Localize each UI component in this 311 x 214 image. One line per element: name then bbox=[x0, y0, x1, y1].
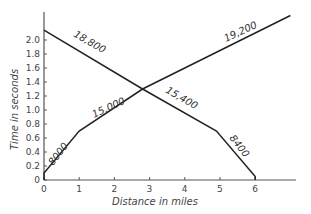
y-axis-title: Time in seconds bbox=[9, 69, 20, 150]
y-tick-label: 0.4 bbox=[26, 147, 41, 157]
y-tick-label: 0.6 bbox=[26, 133, 41, 143]
y-tick-label: 0.8 bbox=[26, 119, 41, 129]
segment-label: 8400 bbox=[227, 132, 251, 159]
segment-label: 15,000 bbox=[90, 95, 126, 120]
x-tick-label: 4 bbox=[182, 184, 188, 194]
x-tick-label: 6 bbox=[252, 184, 258, 194]
y-tick-label: 1.6 bbox=[26, 63, 41, 73]
y-tick-label: 0 bbox=[34, 175, 40, 185]
segment-label: 8000 bbox=[46, 140, 70, 167]
chart-svg: 0123456 00.20.40.60.81.01.21.41.61.82.0 … bbox=[0, 0, 311, 214]
y-tick-label: 1.0 bbox=[26, 105, 41, 115]
y-tick-label: 0.2 bbox=[26, 161, 40, 171]
y-tick-label: 1.8 bbox=[26, 49, 41, 59]
x-tick-label: 5 bbox=[217, 184, 223, 194]
y-tick-label: 1.4 bbox=[26, 77, 41, 87]
segment-label: 15,400 bbox=[164, 84, 200, 111]
segment-label: 18,800 bbox=[72, 28, 108, 55]
x-tick-label: 3 bbox=[147, 184, 153, 194]
x-tick-label: 0 bbox=[41, 184, 47, 194]
y-tick-label: 2.0 bbox=[26, 35, 41, 45]
y-tick-label: 1.2 bbox=[26, 91, 40, 101]
x-tick-label: 2 bbox=[111, 184, 117, 194]
x-tick-label: 1 bbox=[76, 184, 82, 194]
descending-line bbox=[44, 30, 255, 180]
chart: 0123456 00.20.40.60.81.01.21.41.61.82.0 … bbox=[0, 0, 311, 214]
x-axis-title: Distance in miles bbox=[112, 196, 198, 207]
